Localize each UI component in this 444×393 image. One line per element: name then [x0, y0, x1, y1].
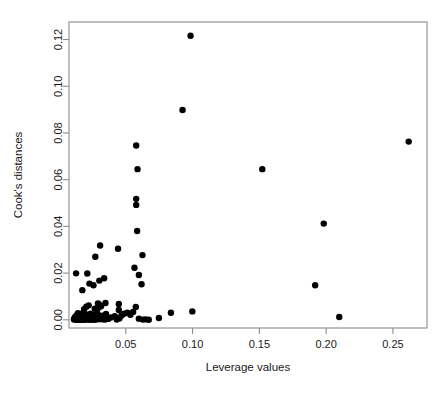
data-point	[189, 308, 195, 314]
data-point	[97, 242, 103, 248]
data-point	[138, 281, 144, 287]
y-tick-label: 0.06	[52, 169, 64, 190]
data-point	[187, 33, 193, 39]
data-point	[115, 246, 121, 252]
data-point	[146, 317, 152, 323]
x-tick-label: 0.25	[382, 338, 403, 350]
x-tick-label: 0.15	[249, 338, 270, 350]
data-point	[134, 166, 140, 172]
y-tick-label: 0.04	[52, 216, 64, 237]
data-point	[336, 314, 342, 320]
y-tick-label: 0.08	[52, 122, 64, 143]
data-point	[75, 317, 81, 323]
data-point	[134, 228, 140, 234]
x-tick-label: 0.20	[315, 338, 336, 350]
data-point	[312, 282, 318, 288]
data-point	[133, 196, 139, 202]
x-tick-label: 0.10	[182, 338, 203, 350]
data-point	[96, 277, 102, 283]
data-point	[321, 220, 327, 226]
y-tick-label: 0.12	[52, 29, 64, 50]
scatter-chart-canvas: 0.050.100.150.200.25 0.000.020.040.060.0…	[0, 0, 444, 393]
data-point	[140, 316, 146, 322]
data-point	[92, 254, 98, 260]
data-point	[133, 142, 139, 148]
y-tick-label: 0.00	[52, 309, 64, 330]
data-point	[127, 311, 133, 317]
x-axis-title: Leverage values	[206, 361, 291, 373]
data-point	[73, 270, 79, 276]
data-point	[139, 252, 145, 258]
data-point	[168, 310, 174, 316]
data-point	[131, 265, 137, 271]
cooks-distance-plot: 0.050.100.150.200.25 0.000.020.040.060.0…	[0, 0, 444, 393]
data-point	[406, 138, 412, 144]
data-point	[113, 316, 119, 322]
data-point	[133, 202, 139, 208]
data-point	[116, 301, 122, 307]
x-tick-label: 0.05	[115, 338, 136, 350]
chart-background	[0, 0, 444, 393]
data-point	[156, 315, 162, 321]
data-point	[259, 166, 265, 172]
data-point	[90, 282, 96, 288]
y-tick-label: 0.10	[52, 76, 64, 97]
data-point	[84, 270, 90, 276]
data-point	[87, 317, 93, 323]
y-axis-title: Cook's distances	[12, 131, 24, 218]
data-point	[79, 287, 85, 293]
y-tick-label: 0.02	[52, 262, 64, 283]
data-point	[136, 272, 142, 278]
data-point	[179, 107, 185, 113]
data-point	[102, 316, 108, 322]
